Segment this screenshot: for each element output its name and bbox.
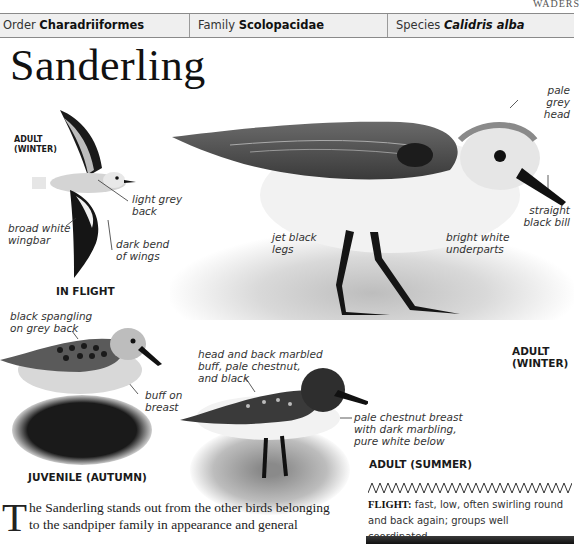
label-line: and black: [198, 372, 323, 384]
section-tag: WADERS: [533, 0, 580, 9]
label-line: head: [530, 108, 570, 120]
label-line: of wings: [116, 250, 169, 262]
taxonomy-bar: Order Charadriiformes Family Scolopacida…: [0, 13, 574, 38]
order-label: Order: [3, 18, 36, 32]
label-line: wingbar: [8, 234, 71, 246]
label-line: on grey back: [10, 322, 92, 334]
label-line: breast: [145, 401, 182, 413]
label-line: broad white: [8, 222, 71, 234]
label-broad-white-wingbar: broad white wingbar: [8, 222, 71, 246]
species-value: Calidris alba: [444, 18, 524, 32]
label-straight-black-bill: straight black bill: [512, 204, 570, 228]
caption-line: (WINTER): [512, 357, 568, 369]
family-label: Family: [198, 18, 235, 32]
juvenile-photo-rock: [12, 395, 152, 465]
label-line: legs: [272, 243, 317, 255]
body-text: he Sanderling stands out from the other …: [29, 500, 330, 532]
label-line: pale chestnut breast: [354, 411, 463, 423]
label-pale-chestnut-breast: pale chestnut breast with dark marbling,…: [354, 411, 463, 447]
label-buff-on-breast: buff on breast: [145, 389, 182, 413]
juvenile-caption: JUVENILE (AUTUMN): [28, 471, 147, 483]
label-dark-bend-of-wings: dark bend of wings: [116, 238, 169, 262]
adult-winter-caption: ADULT (WINTER): [512, 345, 568, 369]
label-line: pale grey: [530, 84, 570, 108]
flight-label: FLIGHT:: [368, 499, 412, 510]
label-line: buff, pale chestnut,: [198, 360, 323, 372]
label-jet-black-legs: jet black legs: [272, 231, 317, 255]
caption-line: ADULT: [512, 345, 568, 357]
species-cell: Species Calidris alba: [388, 14, 574, 37]
flight-pattern-zigzag-icon: [368, 482, 572, 494]
label-pale-grey-head: pale grey head: [530, 84, 570, 120]
label-bright-white-underparts: bright white underparts: [446, 231, 509, 255]
label-line: dark bend: [116, 238, 169, 250]
label-line: bright white: [446, 231, 509, 243]
label-line: black bill: [512, 216, 570, 228]
species-label: Species: [396, 18, 440, 32]
dark-panel-edge: [366, 536, 574, 544]
label-black-spangling: black spangling on grey back: [10, 310, 92, 334]
order-value: Charadriiformes: [39, 18, 144, 32]
label-line: with dark marbling,: [354, 423, 463, 435]
family-value: Scolopacidae: [239, 18, 324, 32]
label-line: black spangling: [10, 310, 92, 322]
label-line: straight: [512, 204, 570, 216]
drop-cap: T: [2, 501, 27, 534]
page-title: Sanderling: [10, 40, 206, 92]
label-line: head and back marbled: [198, 348, 323, 360]
label-head-and-back-marbled: head and back marbled buff, pale chestnu…: [198, 348, 323, 384]
in-flight-caption: IN FLIGHT: [56, 285, 115, 297]
label-line: pure white below: [354, 435, 463, 447]
order-cell: Order Charadriiformes: [0, 14, 190, 37]
family-cell: Family Scolopacidae: [190, 14, 388, 37]
label-line: jet black: [272, 231, 317, 243]
label-line: buff on: [145, 389, 182, 401]
adult-summer-caption: ADULT (SUMMER): [369, 458, 472, 470]
label-line: underparts: [446, 243, 509, 255]
body-paragraph: The Sanderling stands out from the other…: [2, 499, 342, 534]
